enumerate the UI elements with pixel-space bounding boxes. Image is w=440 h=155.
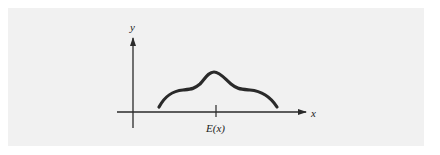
expected-value-label: E(x) (205, 122, 225, 135)
y-axis-label: y (129, 21, 135, 33)
distribution-diagram: y x E(x) (0, 0, 440, 155)
x-axis-label: x (310, 107, 316, 119)
distribution-curve (159, 72, 277, 107)
